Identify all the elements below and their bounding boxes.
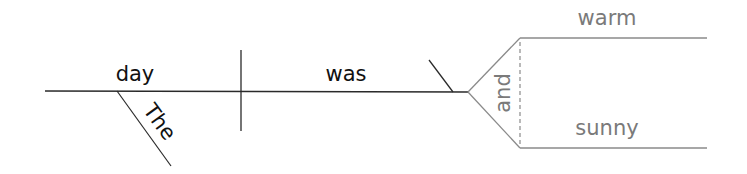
baseline xyxy=(45,91,468,92)
complement-slant xyxy=(429,60,453,92)
predicate-adjective-2: sunny xyxy=(575,116,638,140)
subject-word: day xyxy=(116,62,155,86)
predicate-adjective-1: warm xyxy=(578,6,637,30)
conjunction-word: and xyxy=(491,73,515,113)
verb-word: was xyxy=(326,62,367,86)
modifier-word: The xyxy=(138,98,181,145)
sentence-diagram: day was The and warm sunny xyxy=(0,0,747,174)
